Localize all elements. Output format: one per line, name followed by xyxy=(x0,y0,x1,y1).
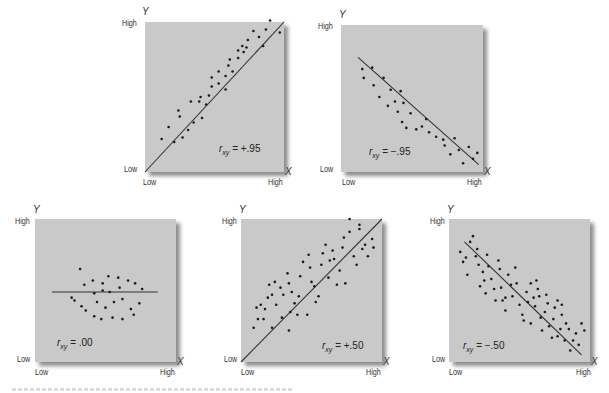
data-point xyxy=(372,246,375,249)
data-point xyxy=(299,275,302,278)
data-point xyxy=(288,329,291,332)
data-point xyxy=(389,88,392,91)
data-point xyxy=(210,85,213,88)
data-point xyxy=(257,318,260,321)
y-high-label: High xyxy=(15,216,30,226)
data-point xyxy=(245,46,248,49)
data-point xyxy=(187,129,190,132)
data-point xyxy=(477,263,480,266)
data-point xyxy=(353,255,356,258)
data-point xyxy=(504,296,507,299)
data-point xyxy=(92,279,95,282)
data-point xyxy=(100,318,103,321)
data-point xyxy=(231,70,234,73)
data-point xyxy=(518,304,521,307)
regression-line xyxy=(465,242,582,355)
data-point xyxy=(237,57,240,60)
y-low-label: Low xyxy=(124,164,137,174)
data-point xyxy=(493,288,496,291)
data-point xyxy=(484,292,487,295)
data-point xyxy=(247,39,250,42)
data-point xyxy=(271,293,274,296)
data-point xyxy=(96,301,99,304)
data-point xyxy=(314,301,317,304)
data-point xyxy=(556,299,559,302)
data-point xyxy=(84,309,87,312)
data-point xyxy=(127,279,130,282)
data-point xyxy=(435,135,438,138)
data-point xyxy=(190,100,193,103)
y-axis-name: Y xyxy=(142,6,149,17)
data-point xyxy=(302,261,305,264)
data-point xyxy=(362,77,365,80)
data-point xyxy=(546,302,549,305)
data-point xyxy=(544,311,547,314)
y-high-label: High xyxy=(318,21,333,31)
data-point xyxy=(501,299,504,302)
data-point xyxy=(522,319,525,322)
y-high-label: High xyxy=(430,216,445,226)
data-point xyxy=(298,295,301,298)
data-point xyxy=(469,241,472,244)
data-point xyxy=(507,273,510,276)
data-point xyxy=(331,249,334,252)
data-point xyxy=(372,84,375,87)
data-point xyxy=(317,295,320,298)
data-point xyxy=(205,103,208,106)
data-point xyxy=(458,149,461,152)
data-point xyxy=(134,282,137,285)
data-point xyxy=(405,127,408,130)
data-point xyxy=(327,276,330,279)
data-point xyxy=(269,19,272,22)
data-point xyxy=(498,268,501,271)
data-point xyxy=(310,281,313,284)
data-point xyxy=(336,283,339,286)
x-axis-name: X xyxy=(177,356,184,367)
y-axis-name: Y xyxy=(33,204,40,215)
data-point xyxy=(552,318,555,321)
data-point xyxy=(108,291,111,294)
data-point xyxy=(348,218,351,221)
data-point xyxy=(217,70,220,73)
data-point xyxy=(121,298,124,301)
data-point xyxy=(575,332,578,335)
data-point xyxy=(466,273,469,276)
data-point xyxy=(487,265,490,268)
data-point xyxy=(252,30,255,33)
scatter-svg xyxy=(145,22,284,172)
plot-area xyxy=(145,22,284,172)
data-point xyxy=(415,128,418,131)
data-point xyxy=(93,292,96,295)
data-point xyxy=(252,326,255,329)
y-axis-name: Y xyxy=(239,204,246,215)
correlation-label: rxy = −.50 xyxy=(463,340,504,353)
data-point xyxy=(569,349,572,352)
data-point xyxy=(561,304,564,307)
y-high-label: High xyxy=(222,216,237,226)
data-point xyxy=(529,322,532,325)
data-point xyxy=(268,283,271,286)
data-point xyxy=(472,157,475,160)
data-point xyxy=(537,288,540,291)
data-point xyxy=(504,309,507,312)
data-point xyxy=(371,66,374,69)
data-point xyxy=(358,228,361,231)
data-point xyxy=(121,318,124,321)
data-point xyxy=(580,322,583,325)
data-point xyxy=(577,344,580,347)
data-point xyxy=(472,235,475,238)
data-point xyxy=(556,335,559,338)
data-point xyxy=(525,291,528,294)
x-low-label: Low xyxy=(143,177,156,187)
x-axis-name: X xyxy=(484,166,491,177)
data-point xyxy=(282,293,285,296)
data-point xyxy=(307,253,310,256)
data-point xyxy=(468,146,471,149)
figure-caption-fragment xyxy=(12,388,292,391)
data-point xyxy=(462,261,465,264)
data-point xyxy=(465,256,468,259)
data-point xyxy=(551,336,554,339)
data-point xyxy=(428,131,431,134)
data-point xyxy=(394,100,397,103)
x-high-label: High xyxy=(268,177,283,187)
